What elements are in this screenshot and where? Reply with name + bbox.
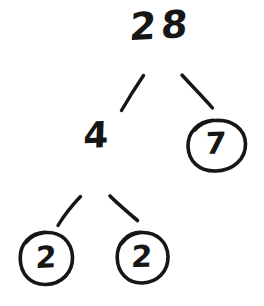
leaf-two-left-value: 2 (35, 242, 57, 273)
factor-tree-figure: 28 4 7 2 2 (0, 0, 264, 306)
edge-root-to-four (122, 76, 144, 111)
edge-four-to-two-right (110, 196, 138, 221)
edge-four-to-two-left (58, 197, 81, 226)
edge-root-to-seven (182, 75, 213, 108)
leaf-two-right-value: 2 (130, 242, 152, 272)
node-root-value: 28 (128, 5, 193, 46)
node-four-value: 4 (83, 117, 109, 154)
leaf-seven-value: 7 (204, 128, 226, 159)
